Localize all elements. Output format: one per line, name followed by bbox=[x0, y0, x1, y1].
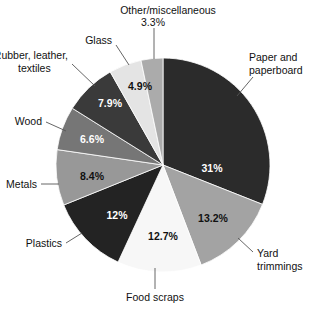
municipal-waste-pie-chart: 31% 13.2% 12.7% 12% 8.4% 6.6% 7.9% 4.9% … bbox=[0, 0, 311, 313]
category-label-other-line2: 3.3% bbox=[141, 16, 165, 28]
category-label-wood: Wood bbox=[15, 115, 42, 127]
category-label-paper-line1: Paper and bbox=[249, 51, 298, 63]
category-label-food: Food scraps bbox=[126, 291, 184, 303]
leader-line-paper bbox=[237, 77, 253, 96]
leader-line-rubber bbox=[72, 64, 95, 86]
category-label-yard-line1: Yard bbox=[257, 247, 279, 259]
category-label-plastics: Plastics bbox=[26, 237, 62, 249]
value-label-glass: 4.9% bbox=[128, 80, 153, 92]
category-label-glass: Glass bbox=[85, 34, 112, 46]
category-label-other-line1: Other/miscellaneous bbox=[120, 4, 216, 16]
value-label-paper: 31% bbox=[201, 162, 223, 174]
category-label-rubber-line2: textiles bbox=[18, 62, 51, 74]
value-label-yard: 13.2% bbox=[198, 212, 228, 224]
value-label-plastics: 12% bbox=[106, 209, 128, 221]
leader-line-yard bbox=[238, 238, 253, 252]
category-label-paper-line2: paperboard bbox=[249, 64, 303, 76]
category-label-rubber-line1: Rubber, leather, bbox=[0, 49, 68, 61]
leader-line-plastics bbox=[66, 233, 82, 243]
category-label-metals: Metals bbox=[6, 178, 37, 190]
pie-chart-container: 31% 13.2% 12.7% 12% 8.4% 6.6% 7.9% 4.9% … bbox=[0, 0, 311, 313]
value-label-metals: 8.4% bbox=[80, 170, 105, 182]
category-label-yard-line2: trimmings bbox=[257, 260, 303, 272]
value-label-wood: 6.6% bbox=[80, 133, 105, 145]
value-label-rubber: 7.9% bbox=[98, 97, 123, 109]
leader-line-glass bbox=[116, 45, 129, 65]
value-label-food: 12.7% bbox=[148, 230, 178, 242]
